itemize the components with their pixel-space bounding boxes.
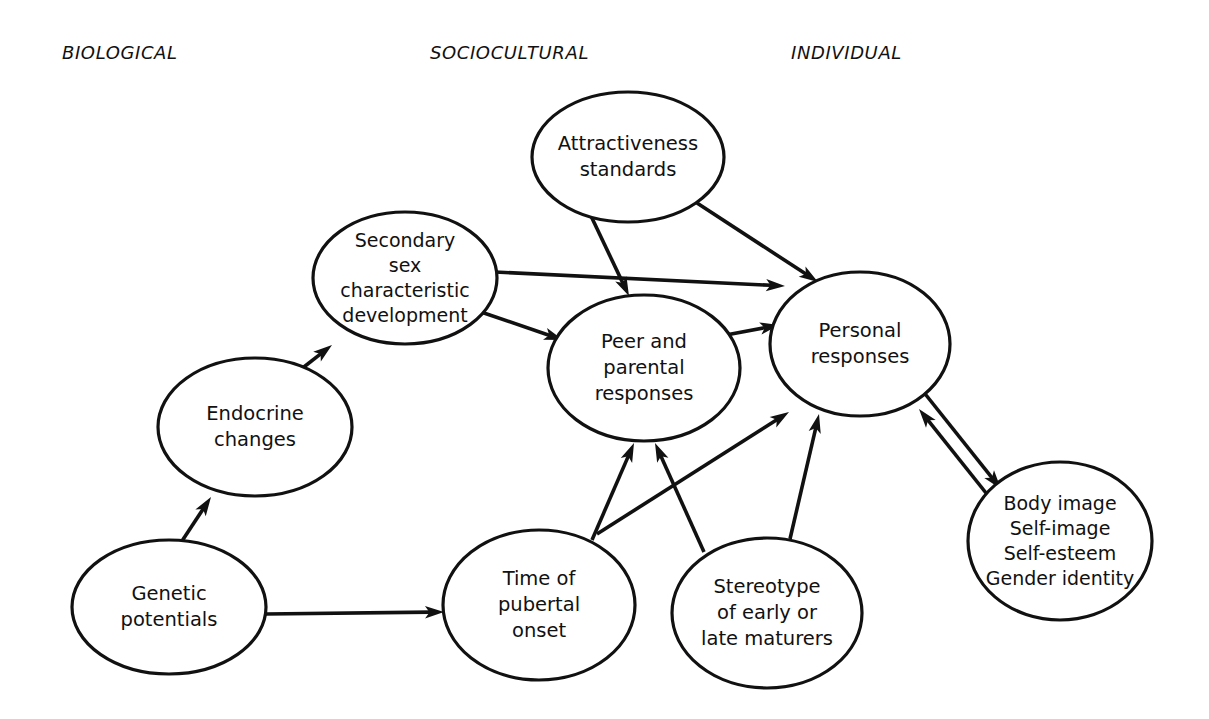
- edge-attractiveness-standards-to-peer-and-parental: [591, 216, 629, 296]
- node-label-line: characteristic: [340, 278, 469, 300]
- node-label-line: sex: [389, 253, 422, 275]
- node-label-line: Stereotype: [713, 575, 820, 598]
- node-label-line: Body image: [1003, 491, 1116, 513]
- node-personal-responses[interactable]: Personalresponses: [770, 272, 950, 416]
- node-body-image-self-image-self-esteem-gender-identity[interactable]: Body imageSelf-imageSelf-esteemGender id…: [968, 462, 1152, 620]
- node-label-line: parental: [603, 356, 684, 379]
- node-label-line: late maturers: [701, 627, 833, 650]
- node-secondary-sex-characteristic-development[interactable]: Secondarysexcharacteristicdevelopment: [313, 212, 497, 344]
- node-peer-and-parental-responses[interactable]: Peer andparentalresponses: [548, 295, 740, 441]
- node-endocrine-changes[interactable]: Endocrinechanges: [158, 358, 352, 496]
- node-label-line: Personal: [819, 319, 902, 342]
- diagram-svg: GeneticpotentialsEndocrinechangesSeconda…: [0, 0, 1209, 719]
- node-label-line: potentials: [121, 608, 218, 631]
- node-label-line: of early or: [717, 601, 818, 624]
- node-label-line: Attractiveness: [558, 132, 698, 155]
- edge-stereotype-to-peer-and-parental: [655, 443, 704, 552]
- node-time-of-pubertal-onset[interactable]: Time ofpubertalonset: [443, 530, 635, 680]
- node-label-line: responses: [811, 345, 910, 368]
- edge-line: [591, 216, 623, 283]
- edge-secondary-sex-to-personal-responses: [495, 272, 785, 291]
- node-label-line: standards: [580, 158, 677, 181]
- edge-stereotype-to-personal-responses: [790, 414, 821, 539]
- node-label-line: development: [342, 303, 467, 325]
- node-attractiveness-standards[interactable]: Attractivenessstandards: [532, 92, 724, 222]
- node-label: Stereotypeof early orlate maturers: [701, 575, 833, 650]
- node-label-line: Genetic: [131, 582, 206, 605]
- node-label-line: Time of: [502, 567, 577, 590]
- edge-attractiveness-standards-to-personal-responses: [697, 203, 818, 282]
- node-label-line: Secondary: [355, 228, 456, 250]
- edge-line: [495, 272, 771, 285]
- edge-line: [481, 312, 550, 335]
- edge-arrowhead: [770, 412, 789, 427]
- node-label-line: Endocrine: [206, 402, 304, 425]
- node-genetic-potentials[interactable]: Geneticpotentials: [72, 540, 266, 674]
- edge-genetic-potentials-to-time-of-pubertal-onset: [266, 606, 444, 618]
- node-label-line: Peer and: [601, 330, 687, 353]
- nodes-layer: GeneticpotentialsEndocrinechangesSeconda…: [72, 92, 1152, 688]
- node-label-line: onset: [512, 619, 566, 642]
- edge-line: [266, 612, 430, 614]
- node-label-line: Gender identity: [986, 566, 1135, 588]
- node-label-line: responses: [595, 382, 694, 405]
- diagram-canvas: BIOLOGICAL SOCIOCULTURAL INDIVIDUAL Gene…: [0, 0, 1209, 719]
- node-label-line: changes: [214, 428, 296, 451]
- edge-line: [922, 390, 992, 478]
- node-label-line: pubertal: [498, 593, 580, 616]
- edge-personal-responses-to-body-image: [922, 390, 1001, 489]
- edge-secondary-sex-to-peer-and-parental: [481, 312, 563, 340]
- edge-arrowhead: [195, 497, 211, 516]
- edge-line: [790, 428, 816, 539]
- edge-line: [182, 509, 203, 541]
- node-label-line: Self-image: [1010, 516, 1111, 538]
- edge-line: [697, 203, 806, 274]
- node-stereotype-of-early-or-late-maturers[interactable]: Stereotypeof early orlate maturers: [672, 538, 862, 688]
- node-label: Peer andparentalresponses: [595, 330, 694, 405]
- edge-genetic-potentials-to-endocrine-changes: [182, 497, 211, 541]
- edge-line: [726, 328, 765, 335]
- node-label-line: Self-esteem: [1004, 541, 1116, 563]
